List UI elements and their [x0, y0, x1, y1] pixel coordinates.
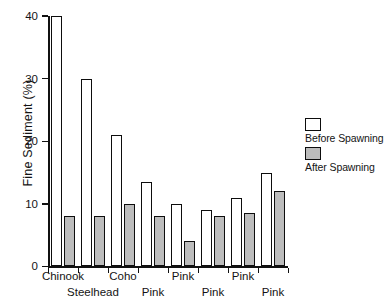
x-axis-label: Pink	[232, 270, 254, 282]
legend-label: After Spawning	[305, 161, 389, 173]
legend-swatch-after	[305, 147, 321, 160]
legend-label: Before Spawning	[305, 132, 389, 144]
y-axis-tick-label: 30	[25, 73, 38, 85]
x-axis-label: Pink	[172, 270, 194, 282]
bar-before-spawning	[81, 79, 92, 267]
plot-area: 010203040	[48, 16, 288, 268]
y-axis-tick-label: 10	[25, 198, 38, 210]
x-axis-label: Chinook	[42, 270, 84, 282]
bar-after-spawning	[154, 216, 165, 266]
x-axis-labels: ChinookSteelheadCohoPinkPinkPinkPinkPink	[48, 270, 348, 304]
bar-group	[138, 16, 168, 266]
x-axis-label: Pink	[202, 286, 224, 298]
bar-after-spawning	[214, 216, 225, 266]
bar-before-spawning	[51, 16, 62, 266]
x-axis-label: Steelhead	[67, 286, 119, 298]
bar-before-spawning	[141, 182, 152, 267]
bar-after-spawning	[274, 191, 285, 266]
y-axis-tick-label: 20	[25, 135, 38, 147]
bar-before-spawning	[261, 173, 272, 267]
bar-group	[48, 16, 78, 266]
bar-after-spawning	[184, 241, 195, 266]
bar-group	[228, 16, 258, 266]
bar-after-spawning	[64, 216, 75, 266]
fine-sediment-bar-chart: Fine Sediment (%) 010203040 ChinookSteel…	[0, 0, 389, 306]
bar-after-spawning	[244, 213, 255, 266]
bar-group	[168, 16, 198, 266]
bar-group	[258, 16, 288, 266]
chart-legend: Before SpawningAfter Spawning	[305, 118, 389, 176]
x-axis-label: Pink	[262, 286, 284, 298]
bar-after-spawning	[94, 216, 105, 266]
bar-before-spawning	[111, 135, 122, 266]
bar-group	[108, 16, 138, 266]
y-axis-tick-label: 40	[25, 10, 38, 22]
x-axis-label: Coho	[109, 270, 137, 282]
x-axis-label: Pink	[142, 286, 164, 298]
legend-swatch-before	[305, 118, 321, 131]
bar-before-spawning	[201, 210, 212, 266]
bar-before-spawning	[231, 198, 242, 267]
bar-series-group	[48, 16, 288, 266]
bar-before-spawning	[171, 204, 182, 267]
bar-group	[78, 16, 108, 266]
bar-after-spawning	[124, 204, 135, 267]
legend-item: After Spawning	[305, 147, 389, 173]
y-axis-tick-label: 0	[32, 260, 38, 272]
legend-item: Before Spawning	[305, 118, 389, 144]
bar-group	[198, 16, 228, 266]
